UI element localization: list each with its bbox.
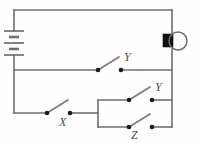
switch-y-top-right-contact [119,68,124,73]
switch-x-right-contact [68,111,73,116]
switch-y-top-label: Y [124,51,131,63]
switch-y-top-lever[interactable] [98,57,119,70]
switch-x-lever[interactable] [47,100,68,113]
circuit-diagram-canvas: Y X Y Z [0,0,198,143]
middle-branch [14,57,172,72]
switch-z-parallel[interactable] [127,114,155,129]
switch-z-parallel-label: Z [131,129,138,141]
switch-y-parallel-right-contact [150,98,155,103]
circuit-schematic [0,0,198,143]
switch-z-parallel-right-contact [150,125,155,130]
switch-y-top[interactable] [96,57,124,72]
main-loop-wires [14,10,172,127]
lamp-symbol [163,32,187,50]
switch-y-parallel-left-contact [127,98,132,103]
switch-z-parallel-lever[interactable] [129,114,150,127]
switch-y-parallel-lever[interactable] [129,87,150,100]
battery-symbol [4,31,24,55]
switch-x-left-contact [45,111,50,116]
switch-y-parallel-label: Y [155,81,162,93]
switch-y-top-left-contact [96,68,101,73]
switch-x[interactable] [45,100,73,115]
lamp-base-icon [163,34,173,47]
bottom-branch [14,100,98,115]
switch-y-parallel[interactable] [127,87,155,102]
switch-x-label: X [59,116,66,128]
